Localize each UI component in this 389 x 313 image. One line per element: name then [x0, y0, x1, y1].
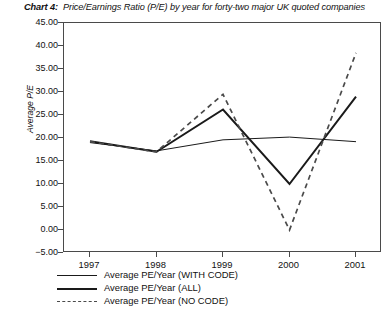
legend-item-no-code: Average PE/Year (NO CODE)	[57, 294, 357, 307]
legend-swatch-solid-thin-icon	[57, 269, 97, 280]
legend-label-with-code: Average PE/Year (WITH CODE)	[104, 269, 238, 280]
series-line-no-code	[90, 53, 356, 230]
x-axis-tick-mark	[289, 252, 290, 257]
legend-item-with-code: Average PE/Year (WITH CODE)	[57, 268, 357, 281]
caption-text: Price/Earnings Ratio (P/E) by year for f…	[63, 2, 365, 12]
legend-item-all: Average PE/Year (ALL)	[57, 281, 357, 294]
chart-legend: Average PE/Year (WITH CODE) Average PE/Y…	[57, 268, 357, 307]
chart-caption: Chart 4: Price/Earnings Ratio (P/E) by y…	[0, 0, 389, 14]
caption-label: Chart 4:	[24, 2, 58, 12]
legend-swatch-dashed-icon	[57, 295, 97, 306]
x-axis-tick-mark	[156, 252, 157, 257]
y-axis-tick-marks	[0, 22, 64, 252]
chart-container: Chart 4: Price/Earnings Ratio (P/E) by y…	[0, 0, 389, 313]
plot-area	[63, 22, 381, 252]
legend-label-no-code: Average PE/Year (NO CODE)	[104, 295, 228, 306]
series-layer	[64, 23, 382, 253]
legend-label-all: Average PE/Year (ALL)	[104, 282, 201, 293]
legend-swatch-solid-thick-icon	[57, 282, 97, 293]
x-axis-tick-mark	[355, 252, 356, 257]
x-axis-tick-mark	[222, 252, 223, 257]
x-axis-tick-mark	[89, 252, 90, 257]
cut-off-footer-text	[2, 307, 387, 313]
